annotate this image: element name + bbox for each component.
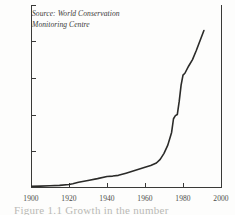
x-tick-label-1920: 1920 xyxy=(54,194,84,203)
data-series-line xyxy=(31,5,222,188)
x-tick-label-1980: 1980 xyxy=(168,194,198,203)
x-tick-label-1960: 1960 xyxy=(130,194,160,203)
figure-caption-text: Figure 1.1 Growth in the number xyxy=(14,204,214,215)
source-annotation: Source: World Conservation Monitoring Ce… xyxy=(32,8,120,30)
source-annotation-line-2: Monitoring Centre xyxy=(32,19,120,30)
source-annotation-line-1: Source: World Conservation xyxy=(32,8,120,19)
figure-caption-cropped: Figure 1.1 Growth in the number xyxy=(14,204,214,215)
x-tick-label-1940: 1940 xyxy=(92,194,122,203)
chart-figure: 1,000 800 600 400 200 1900 1920 1940 196… xyxy=(0,0,235,215)
x-tick-label-1900: 1900 xyxy=(16,194,46,203)
x-tick-label-2000: 2000 xyxy=(206,194,235,203)
